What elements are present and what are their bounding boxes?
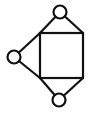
- graph-diagram: [0, 0, 88, 113]
- node-bottom: [53, 94, 66, 107]
- node-left: [8, 51, 21, 64]
- central-square: [40, 33, 83, 78]
- node-top: [54, 6, 67, 19]
- nodes: [8, 6, 67, 107]
- edges: [14, 12, 83, 100]
